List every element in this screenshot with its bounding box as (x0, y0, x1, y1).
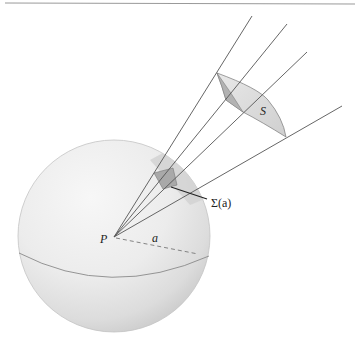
label-radius-a: a (152, 231, 158, 245)
label-surface-s: S (260, 104, 266, 118)
label-point-p: P (99, 232, 108, 246)
top-rule (5, 3, 355, 4)
sphere-solid-angle-diagram: P a S Σ(a) (0, 0, 355, 345)
label-solid-angle-patch: Σ(a) (211, 196, 231, 210)
